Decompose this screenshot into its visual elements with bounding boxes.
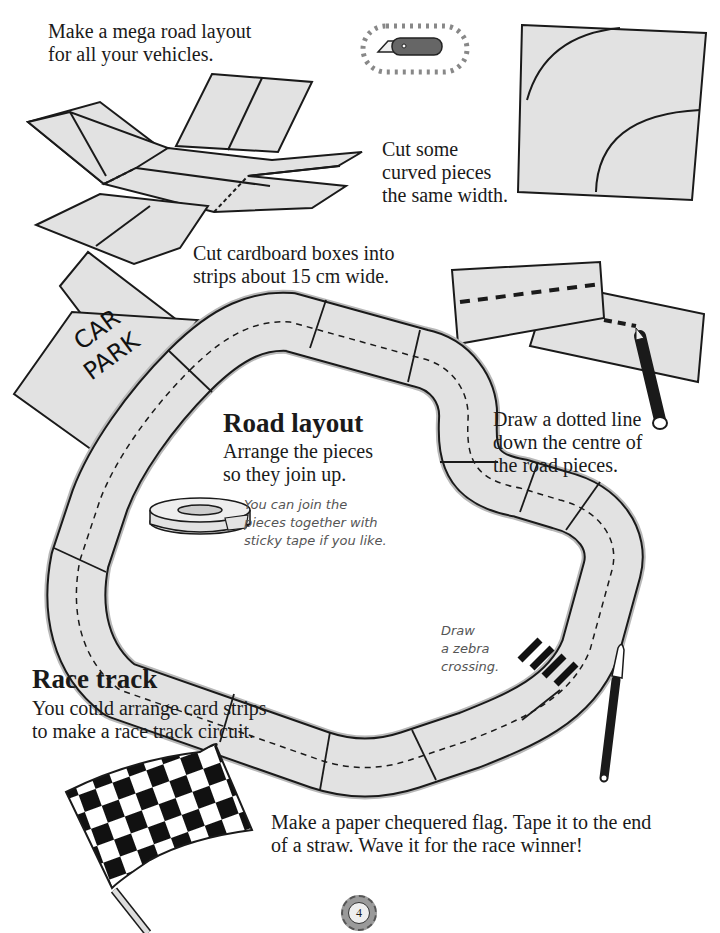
dotted-text-line3: the road pieces. [493,454,618,477]
sticky-tape-icon [150,498,250,534]
strips-text-line2: strips about 15 cm wide. [193,265,389,288]
curved-text-line3: the same width. [382,184,508,207]
flag-text-line1: Make a paper chequered flag. Tape it to … [271,811,651,834]
page-number: 4 [348,902,370,924]
race-track-line2: to make a race track circuit. [32,720,254,743]
dotted-text-line1: Draw a dotted line [493,408,641,431]
strips-text-line1: Cut cardboard boxes into [193,242,395,265]
road-layout-heading: Road layout [223,408,363,438]
tape-tip-line1: You can join the [244,496,347,514]
zebra-text-line1: Draw [441,622,475,640]
tape-tip-line3: sticky tape if you like. [244,532,387,550]
race-track-line1: You could arrange card strips [32,697,267,720]
page-number-badge: 4 [341,895,377,931]
chequered-flag-icon [66,744,252,933]
intro-text-line1: Make a mega road layout [48,20,251,43]
tape-tip-line2: pieces together with [244,514,378,532]
road-piece-cards-illustration [452,262,704,382]
curved-card-illustration [518,25,706,200]
road-layout-line1: Arrange the pieces [223,440,373,463]
race-track-heading: Race track [32,664,157,694]
intro-text-line2: for all your vehicles. [48,43,214,66]
zebra-text-line2: a zebra [441,640,489,658]
craft-knife-icon [363,26,467,72]
curved-text-line1: Cut some [382,138,458,161]
zebra-text-line3: crossing. [441,658,499,676]
road-layout-line2: so they join up. [223,463,346,486]
unfolded-box-illustration [28,74,362,264]
flag-text-line2: of a straw. Wave it for the race winner! [271,834,583,857]
dotted-text-line2: down the centre of [493,431,642,454]
curved-text-line2: curved pieces [382,161,491,184]
